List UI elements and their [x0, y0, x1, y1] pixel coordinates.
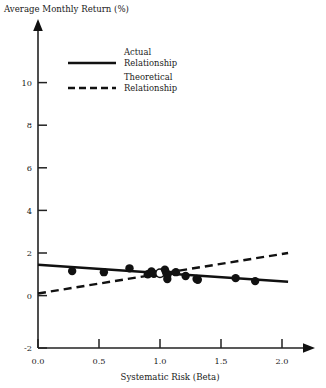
y-tick-label-2: 2	[27, 248, 32, 258]
y-axis-ticks	[38, 83, 47, 348]
y-tick-label-0: 0	[27, 291, 32, 301]
scatter-point	[100, 268, 108, 276]
x-tick-label-10: 1.0	[153, 356, 166, 366]
y-axis-arrowhead	[33, 19, 43, 31]
scatter-point	[68, 267, 76, 275]
y-axis-tick-labels: 10 8 6 4 2 0 -2	[22, 78, 32, 354]
y-tick-label-4: 4	[27, 206, 32, 216]
x-tick-label-15: 1.5	[214, 356, 227, 366]
x-axis-tick-labels: 0.0 0.5 1.0 1.5 2.0	[31, 356, 288, 366]
chart-legend: Actual Relationship Theoretical Relation…	[68, 47, 177, 93]
legend-label-theoretical-line2: Relationship	[124, 83, 177, 93]
x-axis-ticks	[38, 339, 282, 348]
legend-label-theoretical-line1: Theoretical	[124, 72, 173, 82]
x-axis-arrowhead	[303, 343, 315, 353]
y-tick-label-neg2: -2	[24, 343, 32, 353]
y-axis-title: Average Monthly Return (%)	[3, 4, 129, 14]
chart-canvas: Average Monthly Return (%) 10 8 6 4	[0, 0, 326, 388]
scatter-point	[251, 277, 259, 285]
scatter-point	[125, 264, 133, 272]
y-tick-label-8: 8	[27, 120, 32, 130]
x-tick-label-0: 0.0	[31, 356, 44, 366]
scatter-point	[181, 272, 189, 280]
y-axis	[33, 19, 43, 348]
legend-label-actual-line2: Relationship	[124, 58, 177, 68]
y-tick-label-6: 6	[27, 163, 32, 173]
scatter-point	[172, 268, 180, 276]
scatter-chart-figure: Average Monthly Return (%) 10 8 6 4	[0, 0, 326, 388]
scatter-point	[231, 274, 239, 282]
scatter-point	[194, 276, 202, 284]
y-tick-label-10: 10	[22, 78, 32, 88]
x-axis	[38, 343, 315, 353]
x-tick-label-20: 2.0	[275, 356, 288, 366]
chart-points-layer	[68, 264, 259, 285]
legend-label-actual-line1: Actual	[123, 47, 151, 57]
x-tick-label-05: 0.5	[92, 356, 105, 366]
x-axis-title: Systematic Risk (Beta)	[121, 372, 220, 382]
scatter-point	[163, 275, 171, 283]
